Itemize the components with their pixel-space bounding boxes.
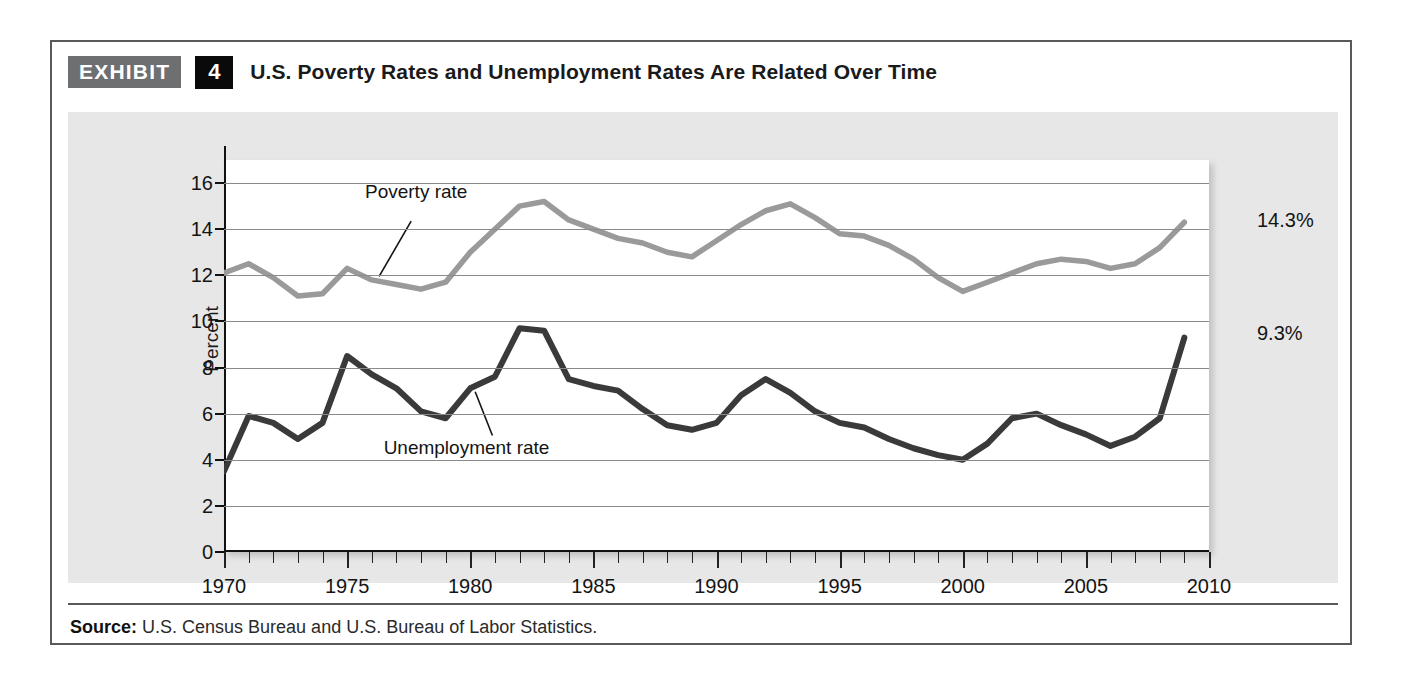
chart-panel: Percent 02468101214161970197519801985199… bbox=[68, 112, 1338, 583]
gridline bbox=[224, 414, 1209, 415]
x-tick-minor bbox=[766, 552, 767, 563]
x-tick-minor bbox=[298, 552, 299, 563]
x-tick-minor bbox=[569, 552, 570, 563]
y-tick-label: 16 bbox=[191, 172, 213, 195]
x-tick-minor bbox=[495, 552, 496, 563]
plot-area: Percent 02468101214161970197519801985199… bbox=[224, 160, 1209, 552]
y-tick-mark bbox=[215, 551, 224, 553]
x-tick-minor bbox=[273, 552, 274, 563]
x-tick-minor bbox=[1135, 552, 1136, 563]
x-tick-label: 1980 bbox=[448, 575, 493, 598]
x-tick-minor bbox=[692, 552, 693, 563]
gridline bbox=[224, 368, 1209, 369]
x-tick-minor bbox=[1184, 552, 1185, 563]
gridline bbox=[224, 460, 1209, 461]
gridline bbox=[224, 506, 1209, 507]
y-tick-mark bbox=[215, 228, 224, 230]
x-tick-minor bbox=[446, 552, 447, 563]
unemployment-series-label: Unemployment rate bbox=[384, 437, 550, 459]
x-tick-minor bbox=[643, 552, 644, 563]
x-tick-label: 2010 bbox=[1187, 575, 1232, 598]
series-lines bbox=[224, 160, 1209, 552]
x-tick-major bbox=[1086, 552, 1088, 568]
x-tick-label: 1985 bbox=[571, 575, 616, 598]
y-tick-mark bbox=[215, 505, 224, 507]
exhibit-badge: EXHIBIT bbox=[68, 56, 181, 88]
plot-inner: Percent 02468101214161970197519801985199… bbox=[224, 160, 1209, 552]
source-text: U.S. Census Bureau and U.S. Bureau of La… bbox=[137, 617, 597, 637]
y-tick-label: 0 bbox=[202, 541, 213, 564]
series-line-unemployment-rate bbox=[224, 328, 1184, 471]
x-tick-minor bbox=[914, 552, 915, 563]
x-tick-major bbox=[840, 552, 842, 568]
page-title: U.S. Poverty Rates and Unemployment Rate… bbox=[250, 60, 937, 84]
y-tick-mark bbox=[215, 459, 224, 461]
source-note: Source: U.S. Census Bureau and U.S. Bure… bbox=[70, 617, 597, 638]
x-tick-minor bbox=[249, 552, 250, 563]
x-tick-minor bbox=[323, 552, 324, 563]
y-tick-mark bbox=[215, 320, 224, 322]
y-tick-mark bbox=[215, 182, 224, 184]
x-tick-minor bbox=[1111, 552, 1112, 563]
x-tick-minor bbox=[1012, 552, 1013, 563]
x-tick-major bbox=[347, 552, 349, 568]
y-tick-label: 10 bbox=[191, 310, 213, 333]
x-tick-major bbox=[963, 552, 965, 568]
source-divider bbox=[68, 603, 1338, 605]
x-tick-minor bbox=[987, 552, 988, 563]
x-tick-minor bbox=[815, 552, 816, 563]
x-tick-major bbox=[717, 552, 719, 568]
y-tick-mark bbox=[215, 274, 224, 276]
x-tick-label: 1970 bbox=[202, 575, 247, 598]
x-tick-minor bbox=[864, 552, 865, 563]
x-tick-label: 1995 bbox=[817, 575, 862, 598]
y-tick-label: 8 bbox=[202, 356, 213, 379]
x-tick-minor bbox=[889, 552, 890, 563]
x-tick-minor bbox=[421, 552, 422, 563]
y-tick-mark bbox=[215, 413, 224, 415]
gridline bbox=[224, 275, 1209, 276]
y-tick-mark bbox=[215, 367, 224, 369]
exhibit-frame: EXHIBIT 4 U.S. Poverty Rates and Unemplo… bbox=[50, 40, 1352, 645]
x-tick-minor bbox=[372, 552, 373, 563]
unemployment-end-value: 9.3% bbox=[1257, 322, 1303, 345]
x-tick-minor bbox=[396, 552, 397, 563]
x-tick-major bbox=[1209, 552, 1211, 568]
x-tick-label: 1990 bbox=[694, 575, 739, 598]
exhibit-number-badge: 4 bbox=[195, 56, 233, 89]
x-tick-minor bbox=[544, 552, 545, 563]
x-tick-minor bbox=[667, 552, 668, 563]
poverty-end-value: 14.3% bbox=[1257, 209, 1314, 232]
source-prefix: Source: bbox=[70, 617, 137, 637]
x-tick-minor bbox=[1160, 552, 1161, 563]
gridline bbox=[224, 229, 1209, 230]
x-tick-major bbox=[224, 552, 226, 568]
x-tick-label: 2000 bbox=[941, 575, 986, 598]
x-tick-major bbox=[470, 552, 472, 568]
series-line-poverty-rate bbox=[224, 202, 1184, 297]
exhibit-figure: EXHIBIT 4 U.S. Poverty Rates and Unemplo… bbox=[0, 0, 1402, 679]
y-tick-label: 14 bbox=[191, 218, 213, 241]
x-tick-label: 1975 bbox=[325, 575, 370, 598]
x-tick-label: 2005 bbox=[1064, 575, 1109, 598]
x-tick-minor bbox=[741, 552, 742, 563]
x-tick-minor bbox=[618, 552, 619, 563]
x-tick-minor bbox=[1061, 552, 1062, 563]
y-tick-label: 4 bbox=[202, 448, 213, 471]
x-tick-minor bbox=[520, 552, 521, 563]
x-tick-major bbox=[593, 552, 595, 568]
x-tick-minor bbox=[1037, 552, 1038, 563]
x-tick-minor bbox=[938, 552, 939, 563]
poverty-series-label: Poverty rate bbox=[365, 181, 467, 203]
y-tick-label: 12 bbox=[191, 264, 213, 287]
y-tick-label: 6 bbox=[202, 402, 213, 425]
x-tick-minor bbox=[790, 552, 791, 563]
y-tick-label: 2 bbox=[202, 494, 213, 517]
gridline bbox=[224, 321, 1209, 322]
exhibit-header: EXHIBIT 4 U.S. Poverty Rates and Unemplo… bbox=[68, 54, 937, 90]
